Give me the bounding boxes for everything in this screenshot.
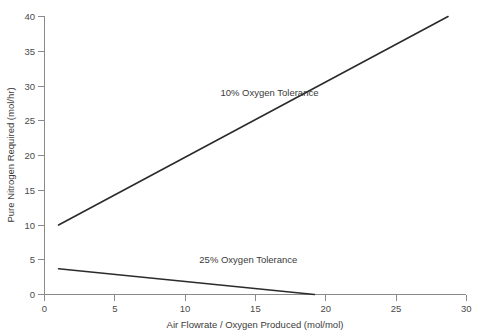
x-tick-label: 5 <box>112 303 117 314</box>
x-tick-label: 25 <box>391 303 402 314</box>
x-tick-label: 10 <box>180 303 191 314</box>
y-tick-label: 40 <box>24 11 35 22</box>
x-tick-label: 30 <box>461 303 472 314</box>
chart-container: 0 5 10 15 20 25 30 35 40 0 5 10 <box>0 0 488 334</box>
x-axis-title: Air Flowrate / Oxygen Produced (mol/mol) <box>167 319 344 330</box>
y-tick-label: 5 <box>30 254 35 265</box>
series-annotation-25pct: 25% Oxygen Tolerance <box>199 254 297 265</box>
y-tick-label: 20 <box>24 150 35 161</box>
y-tick-label: 10 <box>24 220 35 231</box>
y-tick-label: 0 <box>30 289 35 300</box>
y-tick-label: 35 <box>24 46 35 57</box>
y-axis-title: Pure Nitrogen Required (mol/hr) <box>5 87 16 222</box>
chart-background <box>0 0 488 334</box>
x-tick-label: 15 <box>250 303 261 314</box>
x-tick-label: 20 <box>320 303 331 314</box>
series-annotation-10pct: 10% Oxygen Tolerance <box>220 87 318 98</box>
y-tick-label: 30 <box>24 81 35 92</box>
line-chart: 0 5 10 15 20 25 30 35 40 0 5 10 <box>0 0 488 334</box>
x-tick-label: 0 <box>42 303 47 314</box>
y-tick-label: 25 <box>24 115 35 126</box>
y-tick-label: 15 <box>24 185 35 196</box>
